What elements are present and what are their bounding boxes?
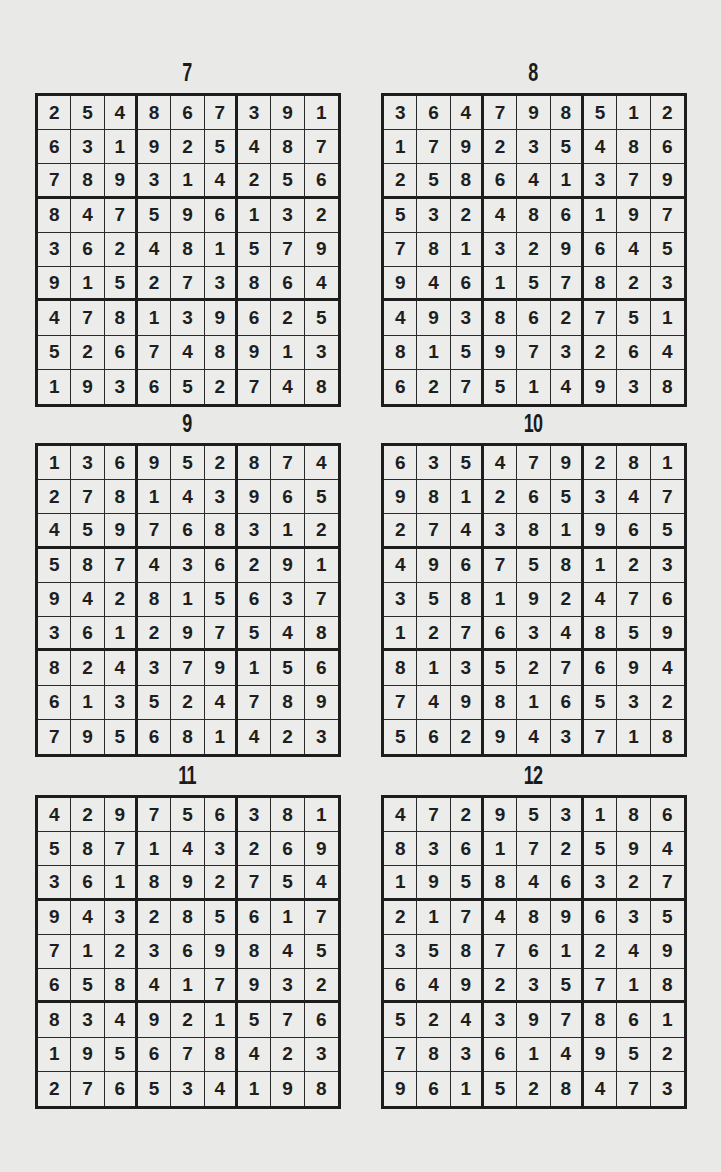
grid-cell: 9 bbox=[484, 336, 517, 370]
grid-cell: 6 bbox=[551, 686, 584, 720]
grid-cell: 9 bbox=[138, 446, 171, 480]
grid-cell: 5 bbox=[171, 798, 204, 832]
grid-cell: 1 bbox=[417, 901, 450, 935]
grid-cell: 5 bbox=[105, 720, 138, 754]
grid-cell: 6 bbox=[451, 267, 484, 301]
grid-cell: 6 bbox=[417, 720, 450, 754]
grid-cell: 3 bbox=[551, 720, 584, 754]
grid-cell: 5 bbox=[551, 480, 584, 514]
grid-cell: 9 bbox=[305, 686, 338, 720]
grid-cell: 5 bbox=[451, 446, 484, 480]
grid-cell: 6 bbox=[551, 866, 584, 900]
grid-cell: 4 bbox=[551, 1038, 584, 1072]
grid-cell: 4 bbox=[551, 617, 584, 651]
grid-cell: 6 bbox=[238, 583, 271, 617]
grid-cell: 5 bbox=[617, 1038, 650, 1072]
grid-cell: 3 bbox=[417, 446, 450, 480]
grid-cell: 6 bbox=[517, 480, 550, 514]
grid-cell: 1 bbox=[384, 130, 417, 164]
grid-cell: 4 bbox=[271, 370, 304, 404]
grid-cell: 6 bbox=[171, 96, 204, 130]
grid-cell: 9 bbox=[238, 480, 271, 514]
sudoku-grid: 2548673916319254877893142568475961323624… bbox=[35, 93, 341, 407]
grid-cell: 3 bbox=[238, 798, 271, 832]
grid-cell: 7 bbox=[71, 1072, 104, 1106]
grid-cell: 8 bbox=[451, 164, 484, 198]
grid-cell: 8 bbox=[238, 267, 271, 301]
grid-cell: 8 bbox=[38, 199, 71, 233]
grid-cell: 9 bbox=[417, 549, 450, 583]
grid-cell: 1 bbox=[451, 1072, 484, 1106]
grid-cell: 3 bbox=[71, 446, 104, 480]
grid-cell: 6 bbox=[451, 832, 484, 866]
grid-cell: 1 bbox=[138, 832, 171, 866]
grid-cell: 3 bbox=[617, 370, 650, 404]
grid-cell: 3 bbox=[271, 199, 304, 233]
grid-cell: 8 bbox=[71, 549, 104, 583]
grid-cell: 9 bbox=[105, 514, 138, 548]
grid-cell: 4 bbox=[38, 301, 71, 335]
grid-cell: 5 bbox=[38, 549, 71, 583]
grid-cell: 8 bbox=[584, 267, 617, 301]
grid-cell: 1 bbox=[617, 969, 650, 1003]
grid-cell: 9 bbox=[271, 549, 304, 583]
grid-cell: 2 bbox=[138, 901, 171, 935]
grid-cell: 8 bbox=[71, 164, 104, 198]
grid-cell: 7 bbox=[105, 832, 138, 866]
grid-cell: 2 bbox=[484, 480, 517, 514]
grid-cell: 3 bbox=[417, 199, 450, 233]
grid-cell: 1 bbox=[584, 549, 617, 583]
grid-cell: 1 bbox=[517, 1038, 550, 1072]
grid-cell: 4 bbox=[205, 686, 238, 720]
grid-cell: 2 bbox=[205, 370, 238, 404]
grid-cell: 6 bbox=[584, 233, 617, 267]
grid-cell: 1 bbox=[451, 480, 484, 514]
grid-cell: 6 bbox=[71, 617, 104, 651]
grid-cell: 2 bbox=[584, 935, 617, 969]
grid-cell: 8 bbox=[384, 832, 417, 866]
grid-cell: 1 bbox=[551, 514, 584, 548]
grid-cell: 3 bbox=[617, 901, 650, 935]
grid-cell: 3 bbox=[384, 583, 417, 617]
grid-cell: 9 bbox=[417, 301, 450, 335]
grid-cell: 3 bbox=[238, 96, 271, 130]
sudoku-grid: 6354792819812653472743819654967581233581… bbox=[381, 443, 687, 757]
grid-cell: 7 bbox=[417, 130, 450, 164]
grid-cell: 8 bbox=[105, 301, 138, 335]
grid-cell: 6 bbox=[584, 651, 617, 685]
grid-cell: 4 bbox=[451, 514, 484, 548]
grid-cell: 3 bbox=[551, 798, 584, 832]
grid-cell: 7 bbox=[384, 233, 417, 267]
grid-cell: 7 bbox=[484, 549, 517, 583]
grid-cell: 2 bbox=[38, 480, 71, 514]
grid-cell: 7 bbox=[205, 96, 238, 130]
grid-cell: 5 bbox=[138, 199, 171, 233]
grid-cell: 9 bbox=[617, 832, 650, 866]
grid-cell: 5 bbox=[484, 1072, 517, 1106]
grid-cell: 7 bbox=[105, 199, 138, 233]
grid-cell: 4 bbox=[484, 199, 517, 233]
grid-cell: 6 bbox=[238, 301, 271, 335]
grid-cell: 5 bbox=[105, 267, 138, 301]
grid-cell: 6 bbox=[205, 798, 238, 832]
grid-cell: 2 bbox=[551, 583, 584, 617]
grid-cell: 7 bbox=[71, 301, 104, 335]
grid-cell: 2 bbox=[451, 199, 484, 233]
grid-cell: 2 bbox=[384, 164, 417, 198]
grid-cell: 4 bbox=[105, 96, 138, 130]
grid-cell: 1 bbox=[484, 832, 517, 866]
grid-cell: 1 bbox=[384, 866, 417, 900]
grid-cell: 4 bbox=[651, 651, 684, 685]
sudoku-grid: 4297563815871432693618927549432856177123… bbox=[35, 795, 341, 1109]
grid-cell: 3 bbox=[71, 1003, 104, 1037]
grid-cell: 9 bbox=[517, 1003, 550, 1037]
grid-cell: 2 bbox=[205, 446, 238, 480]
grid-cell: 8 bbox=[584, 1003, 617, 1037]
grid-cell: 5 bbox=[71, 969, 104, 1003]
grid-cell: 8 bbox=[417, 1038, 450, 1072]
grid-cell: 6 bbox=[517, 935, 550, 969]
grid-cell: 5 bbox=[138, 1072, 171, 1106]
grid-cell: 6 bbox=[484, 617, 517, 651]
grid-cell: 4 bbox=[305, 446, 338, 480]
grid-cell: 6 bbox=[271, 267, 304, 301]
